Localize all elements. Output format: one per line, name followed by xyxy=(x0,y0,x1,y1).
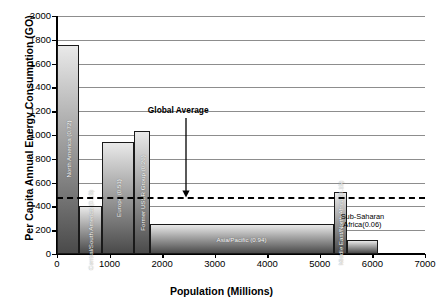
y-tick-label: 2000 xyxy=(7,10,51,21)
global-average-arrow-icon xyxy=(179,118,193,201)
gridline xyxy=(57,16,425,17)
x-tick-mark xyxy=(425,254,426,258)
y-tick-label: 1000 xyxy=(7,129,51,140)
bar-former-ussr-group: Former USSR Group (0.26) xyxy=(134,131,149,254)
x-tick-label: 7000 xyxy=(405,258,443,269)
y-tick-label: 1800 xyxy=(7,34,51,45)
gridline xyxy=(57,111,425,112)
x-tick-mark xyxy=(267,254,268,258)
global-average-line xyxy=(57,197,425,199)
x-tick-label: 5000 xyxy=(300,258,340,269)
callout-line-2: Africa(0.06) xyxy=(328,221,396,230)
bar-label: Former USSR Group (0.26) xyxy=(138,155,145,231)
y-tick-label: 200 xyxy=(7,224,51,235)
x-tick-mark xyxy=(215,254,216,258)
gridline xyxy=(57,40,425,41)
bar-central-south-america: Central/South America (0.15) xyxy=(79,206,102,254)
y-tick-label: 800 xyxy=(7,153,51,164)
x-tick-label: 1000 xyxy=(90,258,130,269)
bar-callout-sub-saharan-africa: Sub-SaharanAfrica(0.06) xyxy=(328,213,396,230)
x-tick-label: 2000 xyxy=(142,258,182,269)
x-tick-label: 0 xyxy=(37,258,77,269)
gridline xyxy=(57,64,425,65)
x-tick-label: 6000 xyxy=(352,258,392,269)
y-tick-label: 400 xyxy=(7,200,51,211)
x-tick-label: 4000 xyxy=(247,258,287,269)
bar-sub-saharan-africa xyxy=(347,240,379,254)
x-tick-mark xyxy=(320,254,321,258)
x-tick-mark xyxy=(372,254,373,258)
y-tick-label: 600 xyxy=(7,177,51,188)
y-tick-label: 1200 xyxy=(7,105,51,116)
x-axis-title: Population (Millions) xyxy=(0,285,443,297)
bar-north-america: North America (0.72) xyxy=(57,45,79,254)
chart-figure: Per Capita Annual Energy Consumption (GO… xyxy=(0,0,443,305)
x-tick-mark xyxy=(162,254,163,258)
y-tick-label: 1400 xyxy=(7,81,51,92)
gridline xyxy=(57,135,425,136)
bar-label: Asia/Pacific (0.94) xyxy=(217,236,267,243)
bar-asia-pacific: Asia/Pacific (0.94) xyxy=(150,224,334,254)
y-tick-label: 1600 xyxy=(7,58,51,69)
bar-label: North America (0.72) xyxy=(65,121,72,178)
global-average-label: Global Average xyxy=(148,105,209,115)
x-tick-mark xyxy=(110,254,111,258)
bar-label: Central/South America (0.15) xyxy=(87,190,94,270)
x-tick-label: 3000 xyxy=(195,258,235,269)
gridline xyxy=(57,87,425,88)
